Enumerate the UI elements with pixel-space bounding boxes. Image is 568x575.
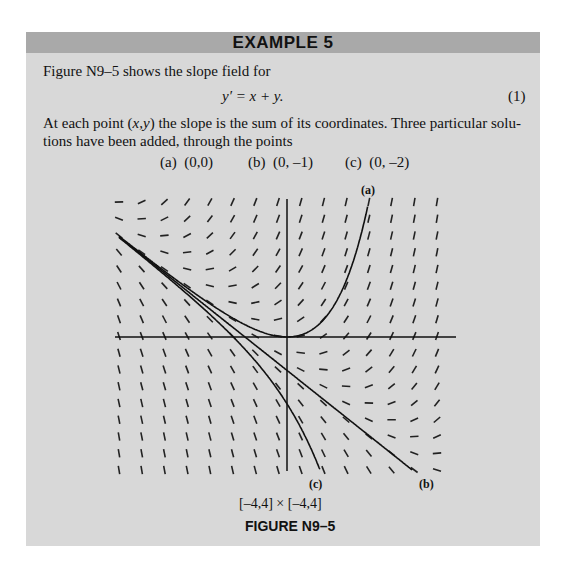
slope-segment — [276, 416, 280, 424]
slope-segment — [388, 435, 396, 438]
slope-segment — [163, 316, 167, 324]
slope-segment — [206, 268, 214, 269]
slope-segment — [434, 417, 440, 423]
slope-segment — [298, 400, 303, 407]
slope-segment — [345, 248, 348, 256]
slope-segment — [276, 399, 280, 406]
slope-segment — [141, 399, 143, 407]
slope-segment — [160, 235, 168, 236]
slope-segment — [368, 231, 370, 239]
slope-segment — [413, 299, 416, 307]
slope-segment — [277, 466, 279, 474]
slope-segment — [390, 299, 393, 307]
slope-segment — [209, 449, 211, 457]
slope-segment — [321, 299, 326, 306]
slope-segment — [412, 366, 416, 373]
slope-segment — [275, 283, 281, 289]
slope-segment — [433, 435, 441, 439]
slope-segment — [344, 316, 349, 323]
slope-segment — [367, 333, 372, 340]
slope-segment — [185, 199, 190, 206]
slope-segment — [436, 265, 438, 273]
slope-segment — [163, 366, 166, 374]
slope-segment — [138, 219, 146, 220]
curve-label-b: (b) — [419, 477, 434, 492]
slope-segment — [164, 432, 166, 440]
slope-segment — [229, 267, 236, 271]
slope-segment — [140, 332, 143, 340]
slope-segment — [366, 450, 371, 457]
slope-segment — [232, 449, 234, 457]
solution-curve-a — [119, 207, 368, 337]
slope-segment — [368, 215, 370, 223]
slope-segment — [209, 416, 211, 424]
slope-segment — [322, 282, 326, 290]
slope-segment — [413, 282, 415, 290]
slope-segment — [185, 349, 188, 357]
slope-segment — [254, 215, 257, 223]
slope-segment — [344, 450, 348, 457]
slope-segment — [163, 382, 165, 390]
slope-segment — [299, 416, 303, 423]
slope-segment — [231, 399, 234, 407]
slope-segment — [118, 416, 120, 424]
slope-segment — [231, 433, 233, 441]
slope-segment — [388, 401, 396, 404]
slope-segment — [322, 466, 325, 474]
solution-curve-c — [119, 237, 320, 469]
slope-segment — [391, 248, 393, 256]
slope-segment — [414, 198, 415, 206]
slope-segment — [367, 466, 372, 473]
slope-segment — [140, 299, 144, 306]
slope-segment — [299, 248, 302, 256]
slope-segment — [344, 466, 348, 474]
slope-segment — [186, 416, 188, 424]
slope-segment — [231, 382, 235, 390]
slope-segment — [320, 384, 328, 388]
slope-segment — [141, 449, 143, 457]
slope-segment — [411, 400, 417, 405]
slope-segment — [435, 366, 439, 374]
slope-segment — [322, 232, 325, 240]
slope-segment — [161, 199, 167, 205]
slope-segment — [230, 232, 235, 239]
slope-segment — [186, 449, 188, 457]
slope-segment — [138, 234, 146, 237]
slope-segment — [231, 416, 234, 424]
slope-segment — [277, 449, 280, 457]
slope-segment — [253, 366, 258, 373]
slope-segment — [160, 251, 168, 254]
slope-segment — [186, 382, 189, 390]
slope-segment — [141, 382, 143, 390]
slope-segment — [209, 466, 211, 474]
slope-segment — [433, 453, 441, 454]
slope-segment — [164, 416, 166, 424]
slope-segment — [118, 399, 120, 407]
slope-segment — [254, 449, 256, 457]
slope-segment — [185, 332, 189, 339]
slope-segment — [276, 266, 281, 273]
slope-segment — [297, 352, 305, 353]
slope-field-plot — [0, 0, 568, 575]
slope-segment — [183, 268, 191, 270]
slope-segment — [185, 316, 190, 323]
slope-segment — [206, 285, 214, 287]
slope-segment — [277, 433, 280, 441]
slope-segment — [186, 366, 189, 374]
slope-segment — [321, 416, 326, 423]
slope-segment — [343, 350, 350, 355]
slope-segment — [433, 469, 441, 472]
slope-segment — [368, 265, 371, 273]
slope-segment — [118, 365, 120, 373]
slope-segment — [368, 248, 370, 256]
slope-segment — [163, 332, 166, 340]
slope-segment — [368, 198, 370, 206]
slope-segment — [298, 383, 304, 389]
slope-segment — [275, 367, 281, 373]
slope-segment — [322, 248, 325, 256]
slope-segment — [365, 418, 373, 421]
slope-segment — [435, 349, 438, 357]
slope-segment — [436, 215, 437, 223]
slope-segment — [319, 352, 327, 355]
slope-segment — [389, 349, 393, 356]
